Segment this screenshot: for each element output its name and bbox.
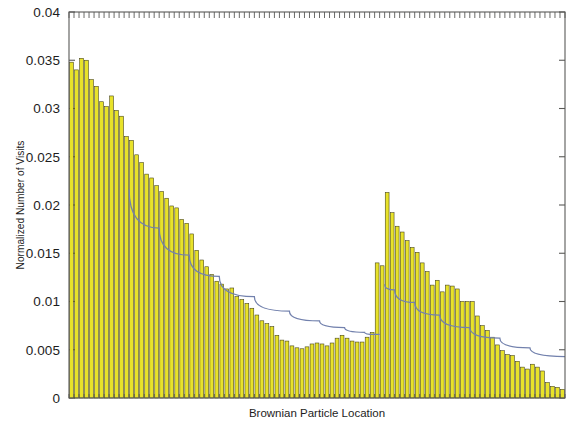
histogram-bar: [355, 342, 359, 398]
chart-figure: 00.0050.010.0150.020.0250.030.0350.04 Br…: [0, 0, 571, 423]
histogram-bar: [425, 272, 429, 398]
histogram-bar: [490, 337, 494, 398]
histogram-bars: [70, 58, 565, 398]
histogram-bar: [155, 186, 159, 398]
histogram-bar: [485, 330, 489, 398]
histogram-bar: [170, 206, 174, 398]
histogram-bar: [75, 70, 79, 398]
histogram-bar: [541, 371, 545, 398]
y-axis-tick-labels: 00.0050.010.0150.020.0250.030.0350.04: [26, 5, 61, 406]
brownian-visits-histogram: 00.0050.010.0150.020.0250.030.0350.04 Br…: [0, 0, 571, 423]
histogram-bar: [526, 369, 530, 398]
histogram-bar: [240, 300, 244, 398]
histogram-bar: [175, 208, 179, 398]
histogram-bar: [220, 284, 224, 398]
histogram-bar: [165, 198, 169, 398]
histogram-bar: [360, 342, 364, 398]
histogram-bar: [375, 263, 379, 398]
histogram-bar: [500, 351, 504, 398]
histogram-bar: [455, 289, 459, 398]
histogram-bar: [135, 155, 139, 398]
histogram-bar: [120, 116, 124, 398]
histogram-bar: [95, 86, 99, 398]
histogram-bar: [495, 345, 499, 398]
histogram-bar: [85, 60, 89, 398]
histogram-bar: [400, 232, 404, 398]
histogram-bar: [380, 266, 384, 398]
histogram-bar: [290, 346, 294, 398]
histogram-bar: [551, 386, 555, 398]
histogram-bar: [510, 356, 514, 398]
y-tick-label: 0.02: [33, 198, 60, 213]
histogram-bar: [450, 286, 454, 398]
histogram-bar: [475, 316, 479, 398]
histogram-bar: [440, 292, 444, 398]
y-tick-label: 0.005: [26, 343, 60, 358]
histogram-bar: [160, 191, 164, 398]
histogram-bar: [546, 383, 550, 398]
histogram-bar: [285, 341, 289, 398]
y-tick-label: 0.01: [33, 294, 60, 309]
histogram-bar: [100, 102, 104, 398]
histogram-bar: [556, 387, 560, 398]
histogram-bar: [80, 58, 84, 398]
histogram-bar: [405, 241, 409, 398]
histogram-bar: [105, 107, 109, 398]
y-axis-title: Normalized Number of Visits: [15, 141, 26, 270]
histogram-bar: [200, 260, 204, 398]
y-tick-label: 0: [52, 391, 60, 406]
histogram-bar: [531, 364, 535, 398]
histogram-bar: [395, 226, 399, 398]
histogram-bar: [470, 302, 474, 399]
histogram-bar: [185, 223, 189, 398]
histogram-bar: [130, 140, 134, 398]
y-tick-label: 0.015: [26, 246, 60, 261]
histogram-bar: [516, 361, 520, 398]
histogram-bar: [315, 343, 319, 398]
histogram-bar: [225, 289, 229, 398]
histogram-bar: [190, 234, 194, 398]
histogram-bar: [250, 308, 254, 398]
histogram-bar: [305, 347, 309, 398]
histogram-bar: [275, 335, 279, 398]
histogram-bar: [325, 346, 329, 398]
histogram-bar: [210, 274, 214, 398]
histogram-bar: [365, 337, 369, 398]
histogram-bar: [110, 96, 114, 398]
histogram-bar: [420, 263, 424, 398]
histogram-bar: [370, 332, 374, 398]
histogram-bar: [435, 280, 439, 398]
histogram-bar: [390, 213, 394, 398]
histogram-bar: [536, 367, 540, 398]
histogram-bar: [270, 327, 274, 398]
histogram-bar: [465, 302, 469, 399]
fit-curve: [129, 190, 565, 357]
histogram-bar: [350, 341, 354, 398]
x-axis-title: Brownian Particle Location: [249, 407, 385, 419]
histogram-bar: [385, 192, 389, 398]
histogram-bar: [140, 163, 144, 398]
y-tick-label: 0.04: [33, 5, 60, 20]
histogram-bar: [90, 80, 94, 398]
histogram-bar: [115, 110, 119, 398]
histogram-bar: [460, 302, 464, 399]
histogram-bar: [521, 367, 525, 398]
histogram-bar: [215, 281, 219, 398]
histogram-bar: [505, 355, 509, 398]
histogram-bar: [70, 62, 74, 398]
y-tick-label: 0.025: [26, 150, 60, 165]
histogram-bar: [260, 321, 264, 398]
histogram-bar: [335, 338, 339, 398]
histogram-bar: [245, 303, 249, 398]
histogram-bar: [295, 348, 299, 398]
histogram-bar: [330, 343, 334, 398]
histogram-bar: [340, 335, 344, 398]
histogram-bar: [145, 174, 149, 398]
histogram-bar: [320, 344, 324, 398]
histogram-bar: [150, 178, 154, 398]
histogram-bar: [561, 389, 565, 398]
histogram-bar: [235, 297, 239, 398]
histogram-bar: [265, 324, 269, 398]
y-tick-label: 0.03: [33, 101, 60, 116]
y-tick-label: 0.035: [26, 53, 60, 68]
